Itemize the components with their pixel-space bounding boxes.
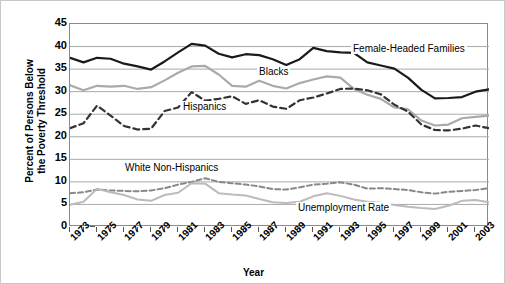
y-tick-label-40: 40 xyxy=(33,40,67,51)
series-line-unemployment-rate xyxy=(70,183,489,209)
y-tick-label-30: 30 xyxy=(33,85,67,96)
annotation-hispanics: Hispanics xyxy=(181,101,228,112)
series-canvas xyxy=(70,24,487,225)
y-tick-label-5: 5 xyxy=(33,197,67,208)
y-tick-label-35: 35 xyxy=(33,62,67,73)
series-line-white-non-hispanics xyxy=(70,178,489,193)
annotation-white-non-hispanics: White Non-Hispanics xyxy=(123,162,220,173)
annotation-female-headed-families: Female-Headed Families xyxy=(351,43,467,54)
y-tick-label-0: 0 xyxy=(33,220,67,231)
lines-svg xyxy=(70,24,489,227)
y-axis-ticks: 454035302520151050 xyxy=(27,1,67,284)
y-tick-label-25: 25 xyxy=(33,107,67,118)
y-tick-label-10: 10 xyxy=(33,175,67,186)
annotation-unemployment-rate: Unemployment Rate xyxy=(296,202,391,213)
y-tick-label-15: 15 xyxy=(33,152,67,163)
poverty-trends-chart: Percent of Persons Below the Poverty Thr… xyxy=(0,0,505,284)
y-tick-label-20: 20 xyxy=(33,130,67,141)
x-axis-title: Year xyxy=(1,267,505,278)
annotation-blacks: Blacks xyxy=(257,66,290,77)
series-line-hispanics xyxy=(70,89,489,131)
y-tick-label-45: 45 xyxy=(33,17,67,28)
